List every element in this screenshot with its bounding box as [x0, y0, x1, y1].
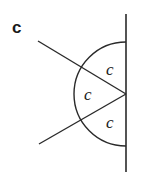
top-angle-label: c [106, 60, 114, 79]
middle-angle-label: c [84, 85, 92, 104]
angle-arc [74, 42, 126, 146]
bottom-angle-label: c [106, 113, 114, 132]
angle-diagram: c c c [0, 0, 144, 179]
